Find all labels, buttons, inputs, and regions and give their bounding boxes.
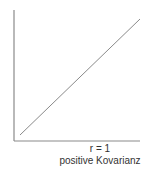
correlation-line (20, 19, 140, 135)
covariance-label: positive Kovarianz (40, 155, 151, 167)
correlation-coefficient-label: r = 1 (40, 143, 151, 155)
